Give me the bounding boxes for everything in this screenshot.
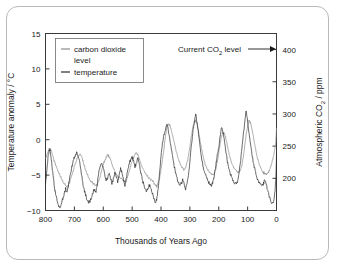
x-tick-label-0: 0 [274,215,279,224]
x-axis-title: Thousands of Years Ago [115,236,207,246]
y-left-tick-label-15: 15 [32,30,41,39]
x-tick-label-500: 500 [125,215,139,224]
x-tick-label-300: 300 [183,215,197,224]
y-axis-right-title-prefix: Atmospheric CO [314,104,324,167]
y-axis-left-title: Temperature anomaly / °C [6,73,16,172]
y-right-tick-label-300: 300 [283,110,297,119]
annotation-arrowhead-icon [270,46,276,52]
x-tick-label-200: 200 [212,215,226,224]
legend-label-carbon-dioxide-line1: carbon dioxide [74,45,127,54]
x-tick-label-700: 700 [68,215,82,224]
legend-label-carbon-dioxide-line2: level [74,56,91,65]
y-left-tick-label-0: 0 [36,136,41,145]
x-tick-label-400: 400 [154,215,168,224]
data-series-layer [46,111,277,208]
y-axis-right-title-suffix: / ppm [314,77,324,101]
x-tick-label-800: 800 [39,215,53,224]
y-left-tick-label-10: 10 [32,65,41,74]
annotation-current-co2-level: Current CO2 level [178,45,276,56]
x-tick-label-600: 600 [97,215,111,224]
y-right-tick-label-350: 350 [283,78,297,87]
x-axis-ticks: 8007006005004003002001000 [39,207,279,224]
y-axis-left-ticks: −10−5051015 [27,30,50,216]
series-line-temperature [46,111,277,208]
x-tick-label-100: 100 [241,215,255,224]
y-right-tick-label-250: 250 [283,142,297,151]
y-right-tick-label-200: 200 [283,174,297,183]
annotation-suffix: level [222,45,241,54]
y-left-tick-label--5: −5 [31,171,41,180]
legend-label-temperature: temperature [74,68,118,77]
y-right-tick-label-400: 400 [283,46,297,55]
y-axis-right-title: Atmospheric CO2 / ppm [314,77,326,166]
y-left-tick-label--10: −10 [27,207,41,216]
chart-legend: carbon dioxide level temperature [56,39,144,83]
annotation-current-co2-text: Current CO2 level [178,45,241,56]
y-left-tick-label-5: 5 [36,100,41,109]
climate-chart: 8007006005004003002001000 −10−5051015 20… [0,0,337,268]
chart-stage: 8007006005004003002001000 −10−5051015 20… [0,0,337,268]
annotation-prefix: Current CO [178,45,219,54]
